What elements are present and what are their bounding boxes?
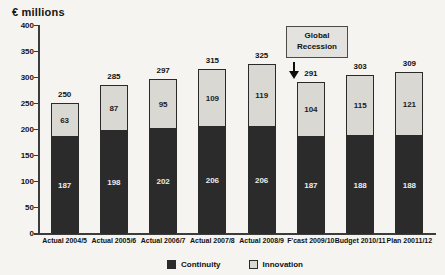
bar-total-label: 250 (43, 90, 87, 99)
bar-segment-innovation: 104 (298, 83, 324, 137)
x-axis-label: Budget 2010/11 (335, 237, 386, 244)
y-axis-tick-mark (34, 129, 38, 130)
bar-segment-continuity: 187 (298, 137, 324, 234)
y-axis-tick-mark (34, 155, 38, 156)
y-axis-tick-label: 350 (4, 47, 34, 56)
bar-total-label: 325 (240, 51, 284, 60)
y-axis-tick-label: 50 (4, 203, 34, 212)
y-axis-tick-mark (34, 207, 38, 208)
chart: € millions 05010015020025030035040063187… (0, 0, 445, 275)
y-axis-tick-label: 0 (4, 229, 34, 238)
stacked-bar: 104187 (297, 82, 325, 233)
legend-item-innovation: Innovation (249, 260, 303, 269)
legend-swatch-icon (167, 260, 176, 269)
bar-total-label: 285 (92, 72, 136, 81)
bar-segment-continuity: 202 (150, 129, 176, 234)
bar-segment-continuity: 187 (52, 137, 78, 234)
chart-title: € millions (12, 6, 65, 18)
bar-segment-continuity: 206 (199, 127, 225, 234)
x-axis-label: Actual 2006/7 (141, 237, 186, 244)
x-axis-label: F'cast 2009/10 (287, 237, 334, 244)
bar-segment-innovation: 121 (396, 73, 422, 136)
bar-total-label: 303 (338, 62, 382, 71)
bar-segment-innovation: 87 (101, 86, 127, 131)
y-axis-tick-label: 250 (4, 99, 34, 108)
x-axis-label: Actual 2008/9 (239, 237, 284, 244)
plot-area: 05010015020025030035040063187250Actual 2… (38, 25, 434, 233)
stacked-bar: 87198 (100, 85, 128, 233)
stacked-bar: 119206 (248, 64, 276, 233)
y-axis-tick-mark (34, 51, 38, 52)
stacked-bar: 109206 (198, 69, 226, 233)
y-axis-tick-label: 200 (4, 125, 34, 134)
bar-segment-continuity: 206 (249, 127, 275, 234)
y-axis-tick-label: 150 (4, 151, 34, 160)
y-axis-tick-mark (34, 103, 38, 104)
y-axis-tick-mark (34, 181, 38, 182)
stacked-bar: 121188 (395, 72, 423, 233)
annotation-global-recession: Global Recession (286, 26, 348, 58)
y-axis-tick-label: 100 (4, 177, 34, 186)
x-axis-line (34, 233, 436, 235)
y-axis-tick-mark (34, 25, 38, 26)
bar-segment-continuity: 188 (347, 136, 373, 234)
bar-segment-innovation: 95 (150, 80, 176, 129)
x-axis-label: Actual 2007/8 (190, 237, 235, 244)
y-axis-tick-label: 300 (4, 73, 34, 82)
legend-item-continuity: Continuity (167, 260, 221, 269)
legend-label: Innovation (263, 260, 303, 269)
stacked-bar: 115188 (346, 75, 374, 233)
legend: ContinuityInnovation (38, 260, 432, 269)
bar-segment-innovation: 119 (249, 65, 275, 127)
y-axis-tick-mark (34, 77, 38, 78)
bar-segment-continuity: 188 (396, 136, 422, 234)
x-axis-label: Actual 2004/5 (42, 237, 87, 244)
y-axis-tick-mark (34, 233, 38, 234)
stacked-bar: 95202 (149, 79, 177, 233)
x-axis-label: Actual 2005/6 (92, 237, 137, 244)
bar-total-label: 315 (190, 56, 234, 65)
bar-segment-innovation: 63 (52, 104, 78, 137)
bar-segment-innovation: 115 (347, 76, 373, 136)
legend-label: Continuity (181, 260, 221, 269)
bar-segment-continuity: 198 (101, 131, 127, 234)
bar-segment-innovation: 109 (199, 70, 225, 127)
legend-swatch-icon (249, 260, 258, 269)
bar-total-label: 297 (141, 66, 185, 75)
y-axis-tick-label: 400 (4, 21, 34, 30)
bar-total-label: 309 (387, 59, 431, 68)
stacked-bar: 63187 (51, 103, 79, 233)
x-axis-label: Plan 20011/12 (387, 237, 433, 244)
annotation-arrow-head-icon (289, 71, 299, 79)
